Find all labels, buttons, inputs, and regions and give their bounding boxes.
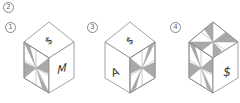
cube-option-4[interactable]: $ <box>189 22 238 93</box>
cube4-right-symbol: $ <box>223 65 231 79</box>
cube-option-3[interactable]: $ A <box>105 22 155 93</box>
cube-figures: $ M $ A <box>0 0 240 103</box>
cube-option-1[interactable]: $ M <box>24 22 74 93</box>
